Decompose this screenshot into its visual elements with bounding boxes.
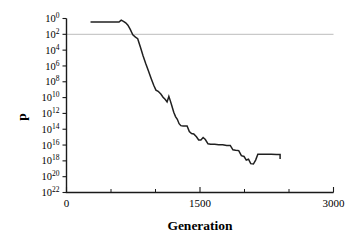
figure-container: 1001021041061081010101210141016101810201…	[0, 0, 361, 237]
x-axis-title: Generation	[167, 218, 233, 233]
y-axis-title: p	[14, 113, 29, 121]
x-tick-label: 0	[64, 197, 70, 209]
svg-text:p: p	[14, 113, 29, 121]
line-chart: 1001021041061081010101210141016101810201…	[0, 0, 361, 237]
svg-text:Generation: Generation	[167, 218, 233, 233]
x-tick-label: 3000	[323, 197, 346, 209]
x-tick-label: 1500	[189, 197, 212, 209]
